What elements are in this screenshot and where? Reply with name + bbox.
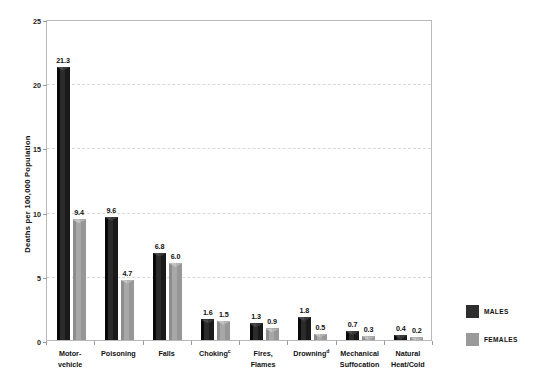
x-axis-label-line: Heat/Cold	[376, 360, 440, 371]
bar-males[interactable]: 0.4	[394, 335, 407, 340]
bar-wrapper: 6.8	[153, 21, 166, 340]
bar-value-label: 0.2	[412, 326, 422, 335]
legend-label: MALES	[484, 308, 509, 315]
x-axis-label-line: Flames	[231, 360, 295, 371]
chart-legend: MALESFEMALES	[466, 305, 538, 361]
bar-cap	[201, 319, 214, 323]
x-axis-label-line: Natural	[376, 349, 440, 360]
bar-cap	[362, 336, 375, 340]
bar-group: 6.86.0	[144, 21, 192, 340]
bar-value-label: 4.7	[122, 269, 132, 278]
bar-males[interactable]: 21.3	[57, 67, 70, 340]
bar-chart: Deaths per 100,000 Population 0510152025…	[0, 0, 542, 388]
bar-males[interactable]: 9.6	[105, 217, 118, 340]
x-axis-label[interactable]: NaturalHeat/Cold	[376, 349, 440, 370]
bar-value-label: 1.8	[299, 306, 309, 315]
bar-cap	[105, 217, 118, 221]
bar-group: 0.40.2	[385, 21, 433, 340]
bar-wrapper: 0.2	[410, 21, 423, 340]
bar-cap	[266, 328, 279, 332]
bar-group: 0.70.3	[337, 21, 385, 340]
bar-females[interactable]: 0.5	[314, 334, 327, 340]
bar-cap	[217, 321, 230, 325]
bar-group: 1.30.9	[240, 21, 288, 340]
bar-males[interactable]: 1.8	[298, 317, 311, 340]
bar-value-label: 1.6	[203, 308, 213, 317]
y-tick-label: 0	[37, 338, 41, 347]
bar-males[interactable]: 1.3	[250, 323, 263, 340]
y-axis-title: Deaths per 100,000 Population	[18, 0, 36, 388]
bar-wrapper: 1.6	[201, 21, 214, 340]
x-tick-mark	[384, 341, 385, 345]
x-tick-mark	[287, 341, 288, 345]
bar-group: 21.39.4	[47, 21, 95, 340]
bar-wrapper: 1.3	[250, 21, 263, 340]
legend-swatch-female	[466, 333, 479, 346]
bar-males[interactable]: 0.7	[346, 331, 359, 340]
bar-wrapper: 0.9	[266, 21, 279, 340]
y-tick-label: 10	[33, 209, 41, 218]
bar-value-label: 0.9	[267, 317, 277, 326]
bar-value-label: 21.3	[56, 56, 70, 65]
y-tick-label: 20	[33, 81, 41, 90]
bar-cap	[153, 253, 166, 257]
bar-cap	[394, 335, 407, 339]
x-tick-mark	[191, 341, 192, 345]
legend-label: FEMALES	[484, 336, 518, 343]
bar-females[interactable]: 9.4	[73, 219, 86, 340]
bar-wrapper: 6.0	[169, 21, 182, 340]
x-tick-mark	[336, 341, 337, 345]
bar-group: 1.80.5	[288, 21, 336, 340]
bar-value-label: 6.0	[171, 252, 181, 261]
bar-value-label: 9.6	[106, 206, 116, 215]
bar-females[interactable]: 0.2	[410, 337, 423, 340]
y-tick-label: 25	[33, 17, 41, 26]
bar-value-label: 1.3	[251, 312, 261, 321]
legend-swatch-male	[466, 305, 479, 318]
bar-cap	[250, 323, 263, 327]
bar-cap	[169, 263, 182, 267]
bar-value-label: 0.5	[315, 323, 325, 332]
legend-item-female[interactable]: FEMALES	[466, 333, 538, 346]
x-axis-label-line: vehicle	[38, 360, 102, 371]
bar-wrapper: 1.8	[298, 21, 311, 340]
bar-value-label: 1.5	[219, 310, 229, 319]
bar-cap	[121, 280, 134, 284]
bar-females[interactable]: 1.5	[217, 321, 230, 340]
bar-males[interactable]: 6.8	[153, 253, 166, 340]
plot-area: 0510152025 21.39.49.64.76.86.01.61.51.30…	[46, 20, 432, 341]
bar-females[interactable]: 0.9	[266, 328, 279, 340]
bar-cap	[57, 67, 70, 71]
bar-wrapper: 0.7	[346, 21, 359, 340]
bar-cap	[314, 334, 327, 338]
bar-wrapper: 4.7	[121, 21, 134, 340]
bar-value-label: 0.7	[348, 320, 358, 329]
x-tick-mark	[143, 341, 144, 345]
bar-value-label: 0.4	[396, 324, 406, 333]
bar-wrapper: 21.3	[57, 21, 70, 340]
bar-wrapper: 9.4	[73, 21, 86, 340]
bar-females[interactable]: 4.7	[121, 280, 134, 340]
bar-cap	[73, 219, 86, 223]
legend-item-male[interactable]: MALES	[466, 305, 538, 318]
x-tick-mark	[432, 341, 433, 345]
bar-wrapper: 0.4	[394, 21, 407, 340]
bar-value-label: 6.8	[155, 242, 165, 251]
bar-females[interactable]: 0.3	[362, 336, 375, 340]
bar-value-label: 9.4	[74, 208, 84, 217]
x-tick-mark	[46, 341, 47, 345]
bar-wrapper: 1.5	[217, 21, 230, 340]
bar-cap	[346, 331, 359, 335]
bar-group: 9.64.7	[95, 21, 143, 340]
x-axis-labels: Motor-vehiclePoisoningFallsChokingcFires…	[46, 341, 432, 388]
y-tick-label: 15	[33, 145, 41, 154]
bar-wrapper: 0.3	[362, 21, 375, 340]
bar-females[interactable]: 6.0	[169, 263, 182, 340]
bar-males[interactable]: 1.6	[201, 319, 214, 340]
y-tick-label: 5	[37, 273, 41, 282]
bar-value-label: 0.3	[364, 325, 374, 334]
bar-wrapper: 9.6	[105, 21, 118, 340]
bar-wrapper: 0.5	[314, 21, 327, 340]
x-tick-mark	[239, 341, 240, 345]
x-tick-mark	[94, 341, 95, 345]
